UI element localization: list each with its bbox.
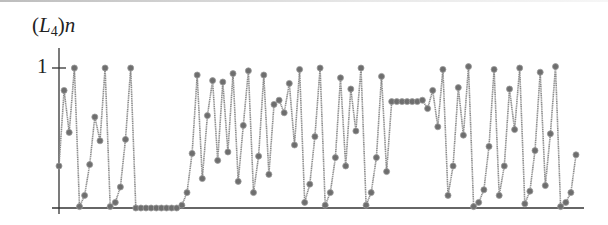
data-point-marker (210, 78, 216, 84)
data-point-marker (240, 122, 246, 128)
data-point-marker (419, 97, 425, 103)
data-point-marker (440, 66, 446, 72)
data-point-marker (184, 190, 190, 196)
data-point-marker (317, 65, 323, 71)
data-point-marker (496, 192, 502, 198)
data-point-marker (527, 188, 533, 194)
data-point-marker (460, 132, 466, 138)
data-point-marker (450, 163, 456, 169)
data-point-marker (292, 142, 298, 148)
data-point-marker (348, 86, 354, 92)
data-point-marker (117, 184, 123, 190)
data-point-marker (435, 124, 441, 130)
data-point-marker (373, 155, 379, 161)
data-point-marker (558, 204, 564, 210)
data-point-marker (204, 113, 210, 119)
data-point-marker (276, 97, 282, 103)
data-point-marker (87, 162, 93, 168)
data-point-marker (245, 68, 251, 74)
data-point-marker (542, 183, 548, 189)
data-point-marker (501, 163, 507, 169)
data-point-marker (77, 204, 83, 210)
data-point-marker (332, 155, 338, 161)
data-point-marker (261, 72, 267, 78)
data-point-marker (338, 75, 344, 81)
data-point-marker (220, 79, 226, 85)
data-point-marker (123, 136, 129, 142)
data-point-marker (507, 86, 513, 92)
data-point-marker (107, 204, 113, 210)
data-point-marker (179, 202, 185, 208)
data-point-marker (491, 66, 497, 72)
data-point-marker (297, 66, 303, 72)
data-point-marker (327, 190, 333, 196)
data-point-marker (532, 148, 538, 154)
data-point-marker (194, 72, 200, 78)
data-point-marker (225, 149, 231, 155)
data-point-marker (343, 163, 349, 169)
data-point-marker (92, 114, 98, 120)
data-point-marker (61, 87, 67, 93)
data-point-marker (235, 178, 241, 184)
data-point-marker (286, 80, 292, 86)
data-point-marker (537, 69, 543, 75)
data-point-marker (307, 181, 313, 187)
data-point-marker (281, 110, 287, 116)
data-point-marker (199, 176, 205, 182)
data-point-marker (568, 190, 574, 196)
data-point-marker (71, 65, 77, 71)
data-point-marker (56, 163, 62, 169)
data-point-marker (358, 65, 364, 71)
data-point-marker (384, 169, 390, 175)
data-point-marker (573, 152, 579, 158)
data-point-marker (251, 190, 257, 196)
data-point-marker (455, 85, 461, 91)
data-point-marker (66, 129, 72, 135)
data-point-marker (466, 64, 472, 70)
data-point-marker (302, 199, 308, 205)
data-point-marker (189, 150, 195, 156)
data-point-marker (322, 202, 328, 208)
data-point-marker (271, 101, 277, 107)
data-point-marker (379, 73, 385, 79)
data-point-marker (517, 65, 523, 71)
data-point-marker (363, 202, 369, 208)
data-point-marker (266, 171, 272, 177)
data-point-marker (368, 190, 374, 196)
data-point-marker (522, 201, 528, 207)
data-point-marker (230, 71, 236, 77)
data-point-marker (553, 64, 559, 70)
data-point-marker (425, 106, 431, 112)
data-point-marker (312, 134, 318, 140)
data-point-marker (563, 199, 569, 205)
data-point-marker (353, 128, 359, 134)
data-point-marker (97, 138, 103, 144)
data-point-marker (430, 87, 436, 93)
data-point-marker (481, 187, 487, 193)
data-point-marker (471, 204, 477, 210)
data-point-marker (256, 153, 262, 159)
data-point-marker (476, 199, 482, 205)
data-point-marker (128, 65, 134, 71)
chart-plot-area (0, 0, 608, 225)
data-point-marker (512, 127, 518, 133)
data-point-marker (215, 157, 221, 163)
data-point-marker (102, 65, 108, 71)
data-point-marker (547, 131, 553, 137)
data-point-marker (486, 143, 492, 149)
data-point-marker (82, 192, 88, 198)
data-point-marker (445, 192, 451, 198)
data-point-marker (112, 199, 118, 205)
